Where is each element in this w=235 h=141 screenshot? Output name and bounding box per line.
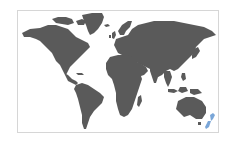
region-iceland[interactable] bbox=[104, 24, 110, 27]
region-philippines[interactable] bbox=[181, 73, 186, 81]
region-uk[interactable] bbox=[109, 31, 116, 39]
world-map[interactable] bbox=[18, 11, 218, 132]
region-greenland[interactable] bbox=[82, 13, 104, 35]
region-arctic-islands[interactable] bbox=[52, 17, 86, 25]
region-southeast-asia[interactable] bbox=[164, 71, 172, 87]
region-south-america[interactable] bbox=[74, 83, 104, 129]
region-australia[interactable] bbox=[176, 97, 206, 119]
region-tasmania[interactable] bbox=[198, 122, 201, 125]
region-indonesia[interactable] bbox=[168, 87, 202, 95]
region-north-america[interactable] bbox=[22, 25, 90, 75]
map-frame bbox=[17, 10, 219, 133]
region-new-zealand[interactable] bbox=[205, 113, 215, 129]
region-central-america[interactable] bbox=[64, 73, 78, 85]
region-caribbean[interactable] bbox=[76, 73, 84, 75]
region-madagascar[interactable] bbox=[137, 95, 142, 107]
